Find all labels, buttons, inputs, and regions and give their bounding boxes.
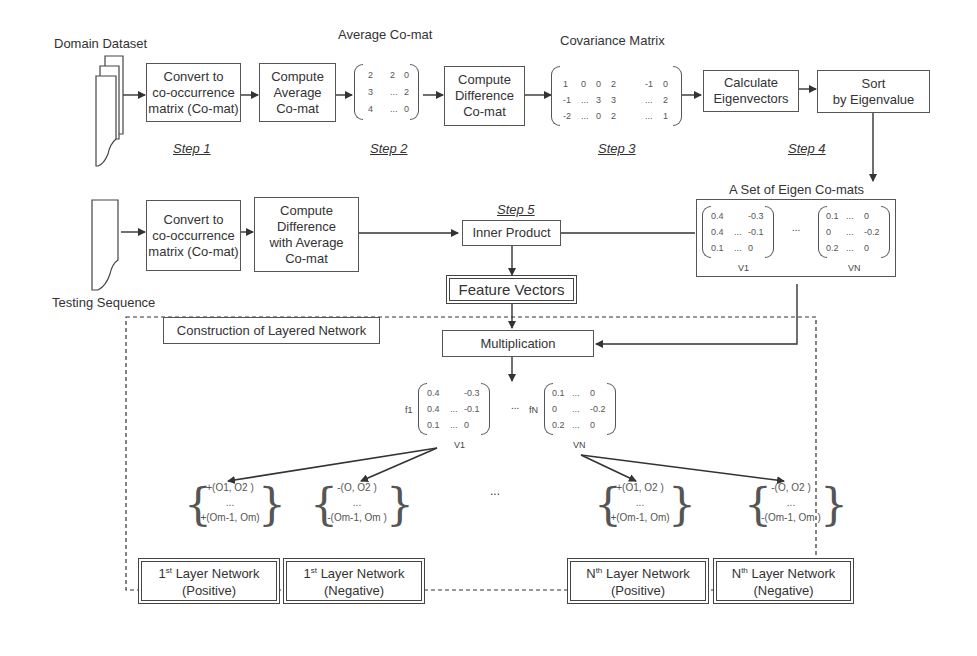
matrix-cell: 0 bbox=[596, 111, 601, 121]
matrix-cell: 4 bbox=[368, 104, 373, 114]
arrow-v1-to-neg bbox=[361, 448, 437, 481]
matrix-cell: 3 bbox=[596, 95, 601, 105]
matrix-cell: ... bbox=[846, 211, 854, 221]
eigen-vn-label: VN bbox=[848, 263, 861, 273]
matrix-cell: -0.2 bbox=[590, 404, 606, 414]
matrix-cell: 0 bbox=[864, 211, 869, 221]
compute-average-box: Compute Average Co-mat bbox=[259, 63, 336, 122]
step4-label: Step 4 bbox=[788, 141, 826, 156]
weighted-vn-matrix: 0.1...00...-0.20.2...0 bbox=[544, 383, 616, 435]
layer-label: 1st Layer Network(Positive) bbox=[159, 563, 260, 598]
matrix-cell: 0 bbox=[404, 70, 409, 80]
matrix-cell: -0.1 bbox=[748, 227, 764, 237]
matrix-cell: 0.4 bbox=[427, 404, 440, 414]
matrix-cell: ... bbox=[572, 388, 580, 398]
matrix-cell: 0 bbox=[748, 243, 753, 253]
matrix-cell: 2 bbox=[611, 79, 616, 89]
matrix-cell: 0 bbox=[464, 420, 469, 430]
layer-label: 1st Layer Network(Negative) bbox=[304, 563, 405, 598]
matrix-cell: 0.1 bbox=[427, 420, 440, 430]
matrix-cell: -0.1 bbox=[464, 404, 480, 414]
matrix-cell: -2 bbox=[563, 111, 571, 121]
matrix-cell: ... bbox=[390, 104, 398, 114]
matrix-cell: 0 bbox=[663, 79, 668, 89]
construction-title-box: Construction of Layered Network bbox=[163, 317, 380, 344]
matrix-cell: 0 bbox=[404, 104, 409, 114]
matrix-cell: 0 bbox=[596, 79, 601, 89]
matrix-cell: 0.2 bbox=[826, 243, 839, 253]
average-comat-label: Average Co-mat bbox=[338, 27, 432, 42]
matrix-cell: 2 bbox=[611, 111, 616, 121]
multiplication-box: Multiplication bbox=[442, 330, 594, 357]
matrix-cell: ... bbox=[572, 420, 580, 430]
inner-product-box: Inner Product bbox=[462, 220, 561, 246]
eigen-vn-matrix: 0.1...00...-0.20.2...0 bbox=[818, 206, 890, 258]
convert-test-comat-box: Convert to co-occurrence matrix (Co-mat) bbox=[146, 200, 241, 271]
fn-label: fN bbox=[529, 405, 538, 415]
matrix-cell: 0.2 bbox=[552, 420, 565, 430]
sort-eigenvalue-box: Sort by Eigenvalue bbox=[817, 70, 930, 113]
pair-set-n-positive: {} +(O1, O2 )...+(Om-1, Om) bbox=[600, 480, 680, 525]
matrix-cell: -0.3 bbox=[464, 388, 480, 398]
compute-difference-box: Compute Difference Co-mat bbox=[444, 66, 525, 126]
domain-dataset-label: Domain Dataset bbox=[54, 36, 147, 51]
matrix-cell: 0 bbox=[864, 243, 869, 253]
step1-label: Step 1 bbox=[173, 141, 211, 156]
feature-vectors-box: Feature Vectors bbox=[446, 275, 577, 304]
matrix-cell: ... bbox=[734, 243, 742, 253]
matrix-cell: 0 bbox=[826, 227, 831, 237]
matrix-cell: 0.1 bbox=[552, 388, 565, 398]
matrix-cell: 0.1 bbox=[826, 211, 839, 221]
matrix-cell: 2 bbox=[368, 70, 373, 80]
matrix-cell: 3 bbox=[368, 87, 373, 97]
matrix-cell: ... bbox=[390, 87, 398, 97]
arrow-set-to-mult bbox=[596, 284, 797, 344]
weighted-v1-label: V1 bbox=[454, 440, 465, 450]
average-comat-matrix: 2203...24...0 bbox=[354, 62, 424, 127]
covariance-matrix: 1002-10-1...33...2-2...02...1 bbox=[551, 66, 682, 131]
compute-diff-average-box: Compute Difference with Average Co-mat bbox=[254, 197, 359, 272]
layer-label: Nth Layer Network(Negative) bbox=[732, 563, 835, 598]
step5-label: Step 5 bbox=[497, 202, 535, 217]
layer-n-negative-box: Nth Layer Network(Negative) bbox=[713, 558, 854, 604]
eigen-v1-matrix: 0.4-0.30.4...-0.10.1...0 bbox=[702, 206, 774, 258]
matrix-cell: ... bbox=[581, 111, 589, 121]
matrix-cell: ... bbox=[846, 243, 854, 253]
matrix-cell: 0.4 bbox=[711, 211, 724, 221]
matrix-cell: 2 bbox=[390, 70, 395, 80]
pair-set-1-positive: {} +(O1, O2 )...+(Om-1, Om) bbox=[190, 480, 270, 525]
layer-label: Nth Layer Network(Positive) bbox=[586, 563, 689, 598]
eigen-ellipsis: ... bbox=[792, 222, 800, 233]
matrix-cell: -1 bbox=[563, 95, 571, 105]
matrix-cell: ... bbox=[645, 111, 653, 121]
matrix-cell: ... bbox=[450, 420, 458, 430]
testing-sequence-label: Testing Sequence bbox=[52, 295, 155, 310]
eigen-v1-label: V1 bbox=[738, 263, 749, 273]
matrix-cell: 3 bbox=[611, 95, 616, 105]
step3-label: Step 3 bbox=[598, 141, 636, 156]
pair-set-n-negative: {} -(O, O2 )...-(Om-1, Om ) bbox=[750, 480, 832, 525]
matrix-cell: ... bbox=[734, 227, 742, 237]
weighted-vn-label: VN bbox=[573, 440, 586, 450]
layer-n-positive-box: Nth Layer Network(Positive) bbox=[567, 558, 709, 604]
matrix-cell: 0.4 bbox=[427, 388, 440, 398]
matrix-cell: ... bbox=[846, 227, 854, 237]
matrix-cell: ... bbox=[572, 404, 580, 414]
arrow-v1-to-pos bbox=[228, 448, 437, 481]
weighted-ellipsis: ... bbox=[511, 400, 519, 411]
matrix-cell: 2 bbox=[404, 87, 409, 97]
matrix-cell: -1 bbox=[645, 79, 653, 89]
pair-set-1-negative: {} -(O, O2 )...-(Om-1, Om ) bbox=[316, 480, 398, 525]
matrix-cell: 0 bbox=[590, 388, 595, 398]
matrix-cell: 0.4 bbox=[711, 227, 724, 237]
eigen-set-label: A Set of Eigen Co-mats bbox=[729, 182, 864, 197]
weighted-v1-matrix: 0.4-0.30.4...-0.10.1...0 bbox=[418, 383, 490, 435]
layered-network-container bbox=[126, 317, 816, 590]
matrix-cell: ... bbox=[581, 95, 589, 105]
matrix-cell: 0 bbox=[590, 420, 595, 430]
matrix-cell: -0.2 bbox=[864, 227, 880, 237]
layers-ellipsis: ... bbox=[490, 484, 500, 498]
matrix-cell: 1 bbox=[563, 79, 568, 89]
matrix-cell: 0 bbox=[552, 404, 557, 414]
layer-1-positive-box: 1st Layer Network(Positive) bbox=[138, 558, 280, 604]
